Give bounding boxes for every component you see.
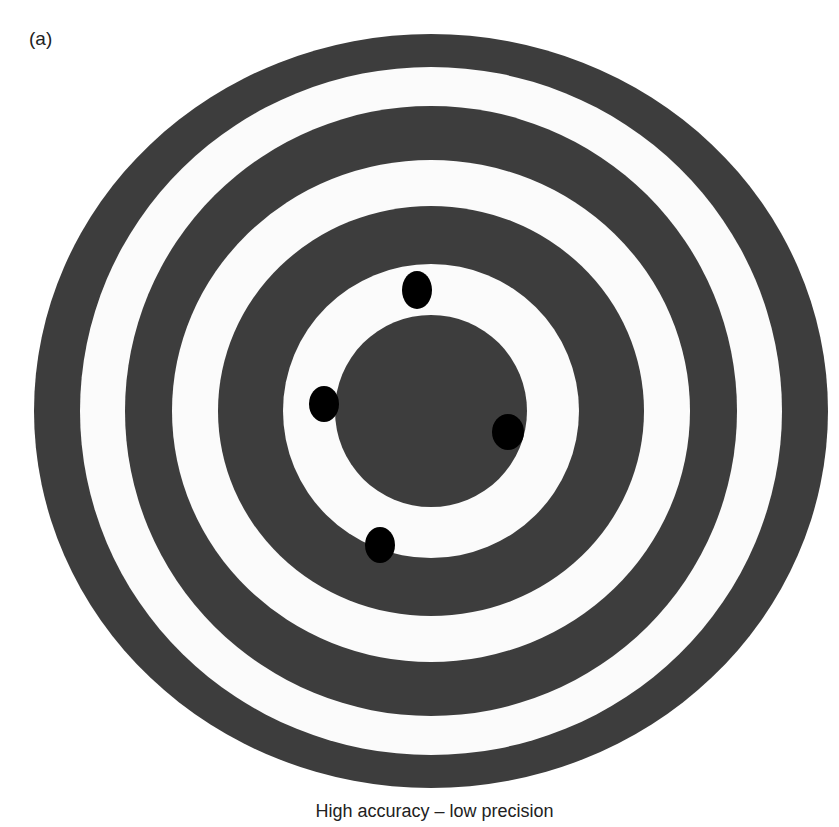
hit-bottom — [365, 527, 395, 563]
target-diagram — [0, 0, 839, 827]
hit-left — [309, 386, 339, 422]
target-ring-7 — [335, 315, 527, 507]
caption: High accuracy – low precision — [0, 801, 839, 822]
hit-right — [492, 414, 524, 450]
target-rings — [34, 34, 828, 788]
hit-top — [402, 271, 432, 309]
